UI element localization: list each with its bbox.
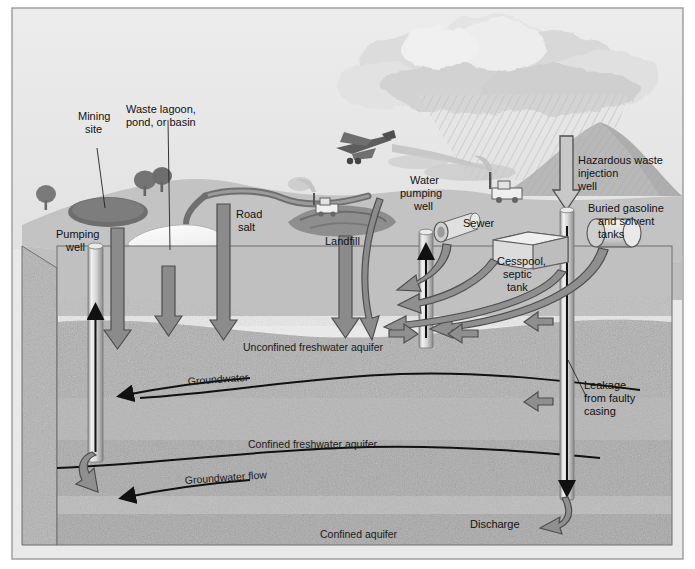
label-mining-site: Mining [78,110,110,122]
label-pumping-well: Pumping [56,228,99,240]
label-leakage-line2: from faulty [584,392,636,404]
label-road-salt-line2: salt [238,221,255,233]
label-hazardous-waste-well-line3: well [577,180,597,192]
label-mining-site-line2: site [85,123,102,135]
label-confined-aquifer: Confined aquifer [320,528,398,540]
label-waste-lagoon: Waste lagoon, [126,103,196,115]
label-road-salt: Road [236,208,262,220]
water-pumping-well [419,229,433,348]
label-hazardous-waste-well: Hazardous waste [578,154,663,166]
label-cesspool-line3: tank [507,281,528,293]
label-water-pumping-well-line2: pumping [400,187,442,199]
figure-canvas: Mining site Waste lagoon, pond, or basin… [0,0,695,569]
label-cesspool-line2: septic [503,268,532,280]
label-pumping-well-line2: well [65,241,85,253]
label-buried-tanks-line3: tanks [598,228,625,240]
mining-site [68,197,148,227]
label-hazardous-waste-well-line2: injection [578,167,618,179]
label-water-pumping-well-line3: well [413,200,433,212]
label-landfill: Landfill [325,235,360,247]
label-water-pumping-well: Water [410,174,439,186]
label-waste-lagoon-line2: pond, or basin [126,116,196,128]
groundwater-contamination-diagram: Mining site Waste lagoon, pond, or basin… [0,0,695,569]
label-cesspool: Cesspool, [497,255,546,267]
label-buried-tanks-line2: and solvent [598,215,654,227]
label-buried-tanks: Buried gasoline [588,202,664,214]
label-leakage: Leakage [584,379,626,391]
label-confined-freshwater-aquifer: Confined freshwater aquifer [248,438,377,450]
label-discharge: Discharge [470,518,520,530]
label-unconfined-aquifer: Unconfined freshwater aquifer [243,341,384,353]
pumping-well [88,243,103,462]
label-sewer: Sewer [463,217,495,229]
label-leakage-line3: casing [584,405,616,417]
block-left-face [22,246,57,545]
